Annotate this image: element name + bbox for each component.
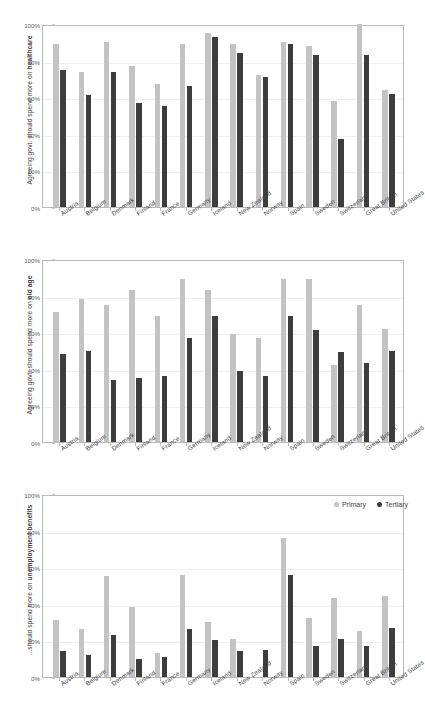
bar-primary — [281, 42, 287, 207]
y-axis-ticks: 0%20%40%60%80%100% — [12, 25, 40, 208]
bar-tertiary — [338, 639, 344, 677]
x-axis-tick: Belgium — [71, 444, 96, 470]
bar-group — [376, 26, 401, 207]
legend-label: Primary — [342, 501, 366, 508]
bar-primary — [357, 24, 363, 207]
legend-swatch-tertiary-icon — [377, 502, 382, 507]
x-axis-tick: Sweden — [300, 679, 325, 705]
bar-tertiary — [60, 70, 66, 207]
y-axis-tick-label: 20% — [28, 168, 40, 175]
bar-group — [47, 26, 72, 207]
bar-tertiary — [162, 376, 168, 442]
legend: PrimaryTertiary — [334, 501, 408, 508]
bar-primary — [180, 44, 186, 207]
bar-group — [249, 261, 274, 442]
bar-tertiary — [111, 635, 117, 677]
x-axis-tick: Norway — [249, 444, 274, 470]
bar-group — [325, 496, 350, 677]
x-axis-tick: Austria — [46, 209, 71, 235]
bar-primary — [53, 312, 59, 442]
x-axis-tick: Iceland — [199, 444, 224, 470]
bar-tertiary — [237, 651, 243, 677]
bar-primary — [104, 305, 110, 442]
x-axis-tick: Great Britain — [351, 679, 376, 705]
bar-tertiary — [338, 352, 344, 442]
y-axis-tick-label: 20% — [28, 638, 40, 645]
x-axis-tick: Austria — [46, 679, 71, 705]
y-axis-tick-label: 0% — [31, 440, 40, 447]
bar-tertiary — [288, 44, 294, 207]
bar-primary — [281, 538, 287, 677]
x-axis-tick: Iceland — [199, 679, 224, 705]
bar-primary — [53, 620, 59, 677]
bar-primary — [53, 44, 59, 207]
bar-group — [275, 496, 300, 677]
bar-tertiary — [237, 53, 243, 207]
x-axis-tick: Denmark — [97, 679, 122, 705]
bar-tertiary — [111, 72, 117, 207]
bar-primary — [79, 299, 85, 442]
x-axis-tick: Iceland — [199, 209, 224, 235]
x-axis-tick: Belgium — [71, 679, 96, 705]
y-axis-tick-label: 80% — [28, 58, 40, 65]
x-axis-tick: New Zealand — [224, 209, 249, 235]
bar-primary — [230, 334, 236, 442]
bar-primary — [155, 316, 161, 442]
bar-tertiary — [60, 354, 66, 442]
x-axis-tick: Norway — [249, 209, 274, 235]
x-axis-tick: New Zealand — [224, 444, 249, 470]
x-axis-labels: AustriaBelgiumDenmarkFinlandFranceGerman… — [42, 444, 404, 470]
x-axis-tick: Germany — [173, 679, 198, 705]
bar-primary — [230, 44, 236, 207]
x-axis-tick: New Zealand — [224, 679, 249, 705]
bar-group — [199, 261, 224, 442]
bar-primary — [331, 365, 337, 442]
x-axis-tick: United States — [376, 444, 401, 470]
bar-tertiary — [212, 640, 218, 677]
bar-primary — [180, 575, 186, 677]
bar-group — [300, 26, 325, 207]
x-axis-tick: United States — [376, 679, 401, 705]
bar-group — [199, 26, 224, 207]
x-axis-labels: AustriaBelgiumDenmarkFinlandFranceGerman… — [42, 679, 404, 705]
bar-group — [148, 496, 173, 677]
x-axis-tick: Denmark — [97, 209, 122, 235]
y-axis-tick-label: 40% — [28, 131, 40, 138]
bar-group — [123, 496, 148, 677]
y-axis-tick-label: 0% — [31, 675, 40, 682]
x-axis-tick: Germany — [173, 209, 198, 235]
bar-primary — [256, 75, 262, 207]
bar-tertiary — [288, 575, 294, 677]
bar-groups — [43, 261, 403, 442]
y-axis-tick-label: 20% — [28, 403, 40, 410]
bar-primary — [230, 639, 236, 677]
bar-group — [224, 26, 249, 207]
bar-tertiary — [313, 55, 319, 207]
bar-group — [72, 261, 97, 442]
legend-item: Tertiary — [377, 501, 408, 508]
bar-primary — [382, 329, 388, 442]
y-axis-tick-label: 100% — [24, 257, 40, 264]
bar-primary — [306, 279, 312, 442]
bar-primary — [129, 66, 135, 207]
bar-groups — [43, 496, 403, 677]
bar-tertiary — [60, 651, 66, 677]
bar-tertiary — [237, 371, 243, 442]
x-axis-tick: Spain — [275, 209, 300, 235]
bar-group — [47, 261, 72, 442]
x-axis-tick: Great Britain — [351, 209, 376, 235]
x-axis-tick: Sweden — [300, 209, 325, 235]
x-axis-tick: Switzerland — [326, 444, 351, 470]
bar-tertiary — [212, 316, 218, 442]
x-axis-tick: Sweden — [300, 444, 325, 470]
bar-group — [275, 26, 300, 207]
bar-group — [350, 261, 375, 442]
bar-tertiary — [288, 316, 294, 442]
legend-swatch-primary-icon — [334, 502, 339, 507]
bar-primary — [306, 46, 312, 207]
bar-tertiary — [338, 139, 344, 207]
bar-group — [123, 261, 148, 442]
x-axis-labels: AustriaBelgiumDenmarkFinlandFranceGerman… — [42, 209, 404, 235]
bar-tertiary — [364, 55, 370, 207]
